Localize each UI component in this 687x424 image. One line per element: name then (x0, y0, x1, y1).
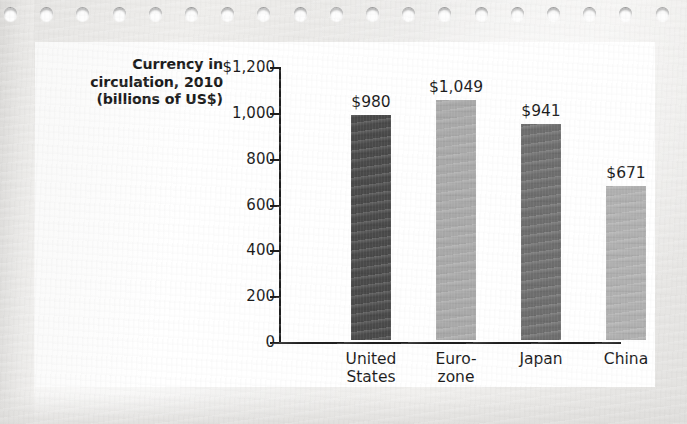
punch-hole (4, 7, 17, 21)
x-axis-line (279, 342, 621, 344)
y-axis-tick-label: 800 (155, 152, 275, 167)
y-axis-tick-label: 400 (155, 243, 275, 258)
punch-hole (76, 7, 89, 21)
punch-hole (619, 7, 632, 21)
plot-area: 02004006008001,000$1,200 $980$1,049$941$… (279, 67, 621, 342)
y-axis-tick-label: $1,200 (155, 60, 275, 75)
bar (606, 186, 646, 340)
x-axis-category-label-line: zone (401, 368, 511, 386)
chart-card: Currency in circulation, 2010 (billions … (35, 42, 655, 387)
punch-hole (366, 7, 379, 21)
bar-value-label: $941 (486, 104, 596, 120)
punch-hole (294, 7, 307, 21)
bar-texture (351, 115, 391, 340)
punch-hole (40, 7, 53, 21)
bar-value-label: $1,049 (401, 80, 511, 96)
y-axis-tick-label: 1,000 (155, 106, 275, 121)
x-axis-category-label: China (571, 350, 681, 368)
punch-hole (221, 7, 234, 21)
bar-value-label: $671 (571, 166, 681, 182)
y-axis-tick-label: 600 (155, 198, 275, 213)
y-axis-tick-label: 0 (155, 335, 275, 350)
punch-hole (547, 7, 560, 21)
punch-hole (149, 7, 162, 21)
page-edge-shading-bottom (0, 394, 687, 424)
bar-texture (606, 186, 646, 340)
page-edge-shading-left (0, 0, 34, 424)
chart-title-line-2: circulation, 2010 (35, 74, 223, 92)
bar-value-label: $980 (316, 95, 426, 111)
punch-hole (511, 7, 524, 21)
punch-hole (475, 7, 488, 21)
bar (351, 115, 391, 340)
punch-hole (583, 7, 596, 21)
punch-hole (257, 7, 270, 21)
punch-hole (330, 7, 343, 21)
punch-hole (113, 7, 126, 21)
punch-hole (402, 7, 415, 21)
y-axis-tick-label: 200 (155, 289, 275, 304)
bar (436, 100, 476, 340)
bar-texture (521, 124, 561, 340)
punch-hole (185, 7, 198, 21)
spiral-punch-holes (0, 0, 687, 38)
scanned-page: Currency in circulation, 2010 (billions … (0, 0, 687, 424)
bar (521, 124, 561, 340)
x-axis-category-label-line: China (571, 350, 681, 368)
punch-hole (438, 7, 451, 21)
punch-hole (656, 7, 669, 21)
bar-texture (436, 100, 476, 340)
